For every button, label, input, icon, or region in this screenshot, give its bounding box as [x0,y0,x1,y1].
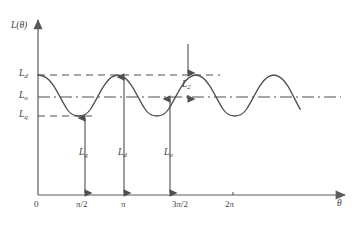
measure-label-Ld: Ld [118,148,127,158]
measure-label-Lo-sub: o [169,151,173,159]
measure-label-Lo: Lo [164,148,173,158]
x-tick-label-2pi: 2π [225,200,234,209]
y-tick-label-Lo: Lo [19,91,28,101]
y-tick-label-Ld: Ld [19,69,28,79]
figure-canvas: L(θ) Ld Lo Lq 0 π/2 π 3π/2 2π θ Lq Ld Lo… [0,0,362,228]
inductance-curve [38,75,300,116]
x-tick-label-origin: 0 [34,200,39,209]
x-tick-label-3pi-over-2: 3π/2 [172,200,188,209]
y-tick-label-Lq: Lq [19,110,28,120]
measure-label-Lq-sub: q [84,151,88,159]
measure-label-Ld-sub: d [123,151,127,159]
x-tick-label-pi-over-2: π/2 [76,200,88,209]
y-tick-label-Ld-sub: d [24,72,28,80]
measure-label-Lq: Lq [79,148,88,158]
measure-label-L2: L2 [182,80,191,90]
measure-label-L2-sub: 2 [187,83,191,91]
y-axis-label: L(θ) [11,21,27,31]
y-tick-label-Lq-sub: q [24,113,28,121]
plot-svg [0,0,362,228]
y-tick-label-Lo-sub: o [24,94,28,102]
x-tick-label-pi: π [121,200,126,209]
x-axis-label: θ [337,199,342,209]
